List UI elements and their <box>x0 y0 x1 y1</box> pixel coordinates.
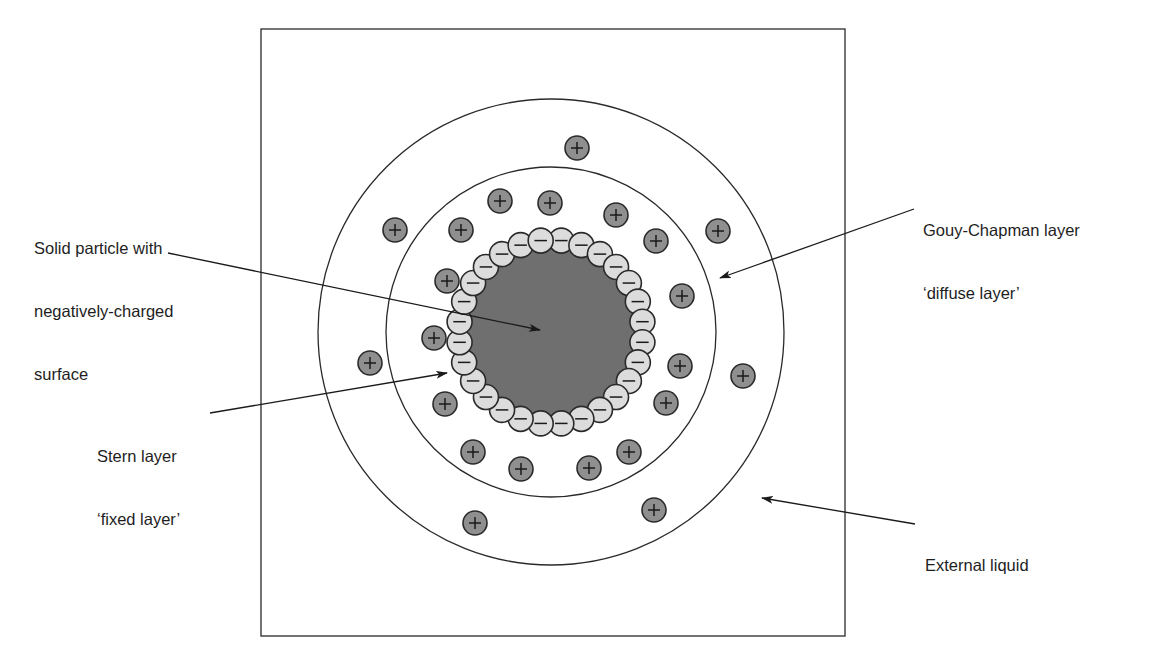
positive-ion <box>383 218 407 242</box>
label-line: Solid particle with <box>34 238 173 259</box>
arrow-stern-layer <box>210 373 447 413</box>
positive-ion <box>358 351 382 375</box>
label-line: ‘diffuse layer’ <box>923 283 1080 304</box>
positive-ion <box>565 136 589 160</box>
positive-ion <box>706 219 730 243</box>
label-line: Stern layer <box>97 446 180 467</box>
positive-ion <box>509 457 533 481</box>
positive-ion <box>731 364 755 388</box>
positive-ion <box>422 326 446 350</box>
positive-ion <box>461 440 485 464</box>
positive-ion <box>577 456 601 480</box>
positive-ion <box>463 511 487 535</box>
positive-ion <box>642 498 666 522</box>
positive-ion <box>668 354 692 378</box>
positive-ion <box>433 392 457 416</box>
positive-ion <box>604 203 628 227</box>
label-line: Gouy-Chapman layer <box>923 220 1080 241</box>
label-line: ‘fixed layer’ <box>97 509 180 530</box>
positive-ion <box>449 218 473 242</box>
positive-ion <box>538 191 562 215</box>
positive-ion <box>670 284 694 308</box>
label-line: surface <box>34 364 173 385</box>
negative-ion <box>528 228 553 253</box>
label-line: negatively-charged <box>34 301 173 322</box>
label-solid-particle: Solid particle with negatively-charged s… <box>34 196 173 406</box>
arrow-gouy-chapman <box>720 209 914 278</box>
positive-ion <box>488 189 512 213</box>
positive-ion <box>644 229 668 253</box>
arrow-external-liquid <box>762 498 915 524</box>
label-stern-layer: Stern layer ‘fixed layer’ <box>97 404 180 551</box>
label-gouy-chapman-layer: Gouy-Chapman layer ‘diffuse layer’ <box>923 178 1080 325</box>
positive-ion <box>435 269 459 293</box>
positive-ion <box>654 391 678 415</box>
label-external-liquid: External liquid <box>925 513 1029 597</box>
positive-ion <box>617 440 641 464</box>
label-line: External liquid <box>925 555 1029 576</box>
